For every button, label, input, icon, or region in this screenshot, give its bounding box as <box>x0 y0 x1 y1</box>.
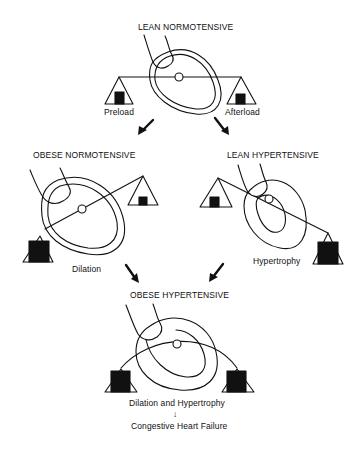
arrow-from-lean-hypertensive <box>209 264 223 282</box>
fulcrum <box>265 195 273 203</box>
right-weight-large <box>318 242 338 264</box>
fulcrum <box>78 205 86 213</box>
afterload-weight <box>236 94 245 104</box>
caption-hypertrophy: Hypertrophy <box>253 256 300 266</box>
diagram-canvas <box>0 0 357 450</box>
title-lean-normotensive: LEAN NORMOTENSIVE <box>138 22 233 32</box>
right-weight <box>139 197 147 205</box>
down-arrow-icon: ↓ <box>173 409 177 419</box>
label-afterload: Afterload <box>225 107 260 117</box>
label-preload: Preload <box>104 107 134 117</box>
title-obese-hypertensive: OBESE HYPERTENSIVE <box>130 290 229 300</box>
left-weight <box>210 197 219 207</box>
right-weight-large <box>227 371 246 392</box>
great-vessels <box>30 168 70 204</box>
preload-weight <box>115 92 124 104</box>
panel-lean-hypertensive <box>200 164 343 264</box>
fulcrum <box>175 73 183 81</box>
panel-obese-hypertensive <box>105 304 254 392</box>
outcome-congestive-heart-failure: Congestive Heart Failure <box>131 421 227 431</box>
caption-dilation: Dilation <box>72 264 101 274</box>
arrow-from-obese-normotensive <box>126 265 139 283</box>
panel-lean-normotensive <box>105 35 256 114</box>
balance-beam <box>218 178 328 233</box>
left-weight-large <box>111 371 130 392</box>
left-weight-large <box>29 241 49 262</box>
caption-dilation-and-hypertrophy: Dilation and Hypertrophy <box>129 398 225 408</box>
great-vessels <box>238 164 267 196</box>
fulcrum <box>173 340 181 348</box>
arrow-to-lean-hypertensive <box>215 118 229 135</box>
panel-obese-normotensive <box>23 168 158 262</box>
arrow-to-obese-normotensive <box>138 120 153 135</box>
title-obese-normotensive: OBESE NORMOTENSIVE <box>33 150 135 160</box>
title-lean-hypertensive: LEAN HYPERTENSIVE <box>227 150 319 160</box>
